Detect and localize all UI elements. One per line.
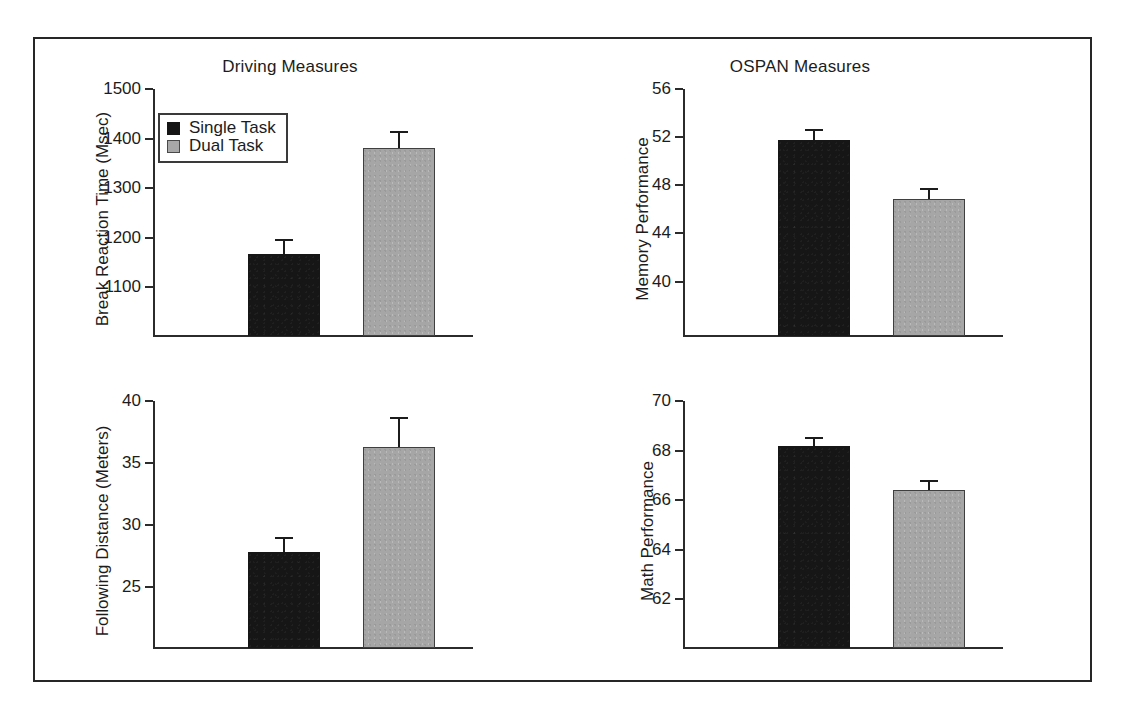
legend-label-single-task: Single Task [189, 119, 276, 137]
y-tick-label: 1200 [103, 228, 141, 248]
error-bar-cap [805, 437, 823, 439]
y-tick-label: 64 [652, 540, 671, 560]
y-tick-label: 62 [652, 589, 671, 609]
y-tick-label: 70 [652, 391, 671, 411]
legend-row-single-task: Single Task [167, 119, 276, 137]
y-tick [145, 462, 153, 464]
y-tick [145, 524, 153, 526]
bar-dual-task [363, 447, 435, 648]
y-axis-label-memory-performance: Memory Performance [633, 94, 653, 344]
bar-single-task [778, 446, 850, 648]
y-tick [145, 237, 153, 239]
y-tick [145, 138, 153, 140]
legend-box: Single Task Dual Task [158, 113, 288, 163]
bar-dual-task [893, 199, 965, 336]
y-tick [675, 450, 683, 452]
y-tick-label: 1400 [103, 129, 141, 149]
bar-dual-task [893, 490, 965, 648]
panel-memory-performance: OSPAN Measures Memory Performance 404448… [595, 57, 1065, 357]
y-tick-label: 40 [652, 272, 671, 292]
y-tick [145, 88, 153, 90]
error-bar-cap [390, 417, 408, 419]
panel-title-ospan-measures: OSPAN Measures [635, 57, 965, 77]
y-tick [675, 281, 683, 283]
legend-label-dual-task: Dual Task [189, 137, 263, 155]
panel-following-distance: Following Distance (Meters) 25303540 [65, 369, 565, 669]
plot-area-memory-performance: Memory Performance 4044485256 [683, 89, 1003, 337]
y-tick-label: 1300 [103, 178, 141, 198]
error-bar-cap [275, 239, 293, 241]
error-bar-cap [275, 537, 293, 539]
error-bar-cap [805, 129, 823, 131]
y-tick [675, 232, 683, 234]
y-tick [145, 400, 153, 402]
error-bar-cap [920, 480, 938, 482]
y-axis-label-following-distance: Following Distance (Meters) [93, 401, 113, 661]
y-tick-label: 48 [652, 175, 671, 195]
y-tick [675, 549, 683, 551]
y-tick-label: 68 [652, 441, 671, 461]
panel-math-performance: Math Performance 6264666870 [595, 369, 1065, 669]
error-bar-stem [283, 537, 285, 552]
y-tick-label: 40 [122, 391, 141, 411]
bar-single-task [248, 552, 320, 648]
y-tick [145, 286, 153, 288]
y-tick-label: 1500 [103, 79, 141, 99]
y-tick [675, 598, 683, 600]
y-tick-label: 56 [652, 79, 671, 99]
error-bar-stem [398, 131, 400, 147]
error-bar-stem [283, 239, 285, 254]
figure-frame: Driving Measures Break Reaction Time (Ms… [33, 37, 1092, 682]
bar-single-task [778, 140, 850, 336]
error-bar-cap [920, 188, 938, 190]
y-tick-label: 44 [652, 223, 671, 243]
y-axis-spine [683, 401, 685, 649]
error-bar-cap [390, 131, 408, 133]
y-tick [675, 136, 683, 138]
y-tick [675, 184, 683, 186]
legend-row-dual-task: Dual Task [167, 137, 276, 155]
y-tick-label: 35 [122, 453, 141, 473]
y-tick-label: 66 [652, 490, 671, 510]
plot-area-following-distance: Following Distance (Meters) 25303540 [153, 401, 473, 649]
panel-title-driving-measures: Driving Measures [125, 57, 455, 77]
y-tick-label: 30 [122, 515, 141, 535]
bar-single-task [248, 254, 320, 336]
y-tick [145, 187, 153, 189]
y-tick-label: 52 [652, 127, 671, 147]
y-tick [675, 499, 683, 501]
y-axis-spine [683, 89, 685, 337]
y-axis-spine [153, 401, 155, 649]
y-axis-spine [153, 89, 155, 337]
dual-task-swatch [167, 140, 180, 153]
y-tick-label: 1100 [104, 277, 141, 297]
y-tick [675, 400, 683, 402]
single-task-swatch [167, 122, 180, 135]
y-tick [675, 88, 683, 90]
error-bar-stem [398, 417, 400, 447]
plot-area-math-performance: Math Performance 6264666870 [683, 401, 1003, 649]
y-tick [145, 586, 153, 588]
bar-dual-task [363, 148, 435, 336]
y-tick-label: 25 [122, 577, 141, 597]
panel-break-reaction-time: Driving Measures Break Reaction Time (Ms… [65, 57, 565, 357]
